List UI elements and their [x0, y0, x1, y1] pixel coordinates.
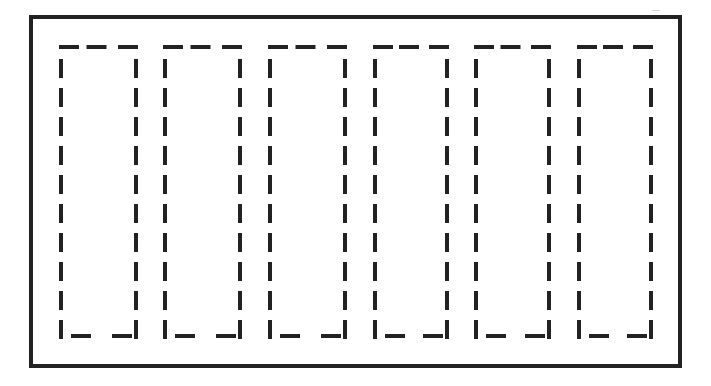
scan-artifact: [652, 10, 660, 11]
columns-group: [59, 47, 653, 339]
dashed-column-4: [373, 47, 449, 339]
outer-frame: [31, 17, 680, 366]
dashed-column-3: [268, 47, 347, 339]
dashed-column-2: [163, 47, 242, 339]
dashed-column-5: [474, 47, 551, 339]
diagram-canvas: [0, 0, 711, 386]
dashed-column-1: [59, 47, 138, 339]
dashed-column-6: [577, 47, 653, 339]
